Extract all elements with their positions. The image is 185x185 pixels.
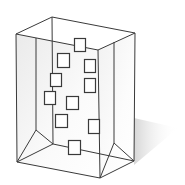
box-illustration: [0, 0, 185, 185]
floating-square: [51, 74, 62, 87]
floating-square: [85, 79, 96, 93]
floating-square: [75, 39, 86, 52]
box-edge: [16, 17, 52, 34]
floating-square: [67, 97, 79, 110]
shadow-shape: [134, 118, 178, 165]
drop-shadow: [134, 118, 178, 165]
floating-square: [58, 54, 70, 68]
floating-square: [56, 115, 68, 128]
floating-square: [69, 141, 81, 155]
floating-square: [45, 92, 56, 105]
box-edge: [52, 17, 135, 33]
wireframe-box-diagram: [0, 0, 185, 185]
floating-square: [89, 120, 100, 134]
floating-square: [85, 60, 96, 73]
